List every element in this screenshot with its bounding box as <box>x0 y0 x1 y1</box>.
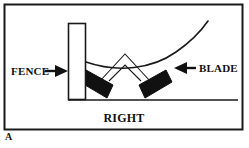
fence-board <box>69 24 86 100</box>
diagram-canvas: FENCE BLADE RIGHT <box>0 0 249 148</box>
fence-label: FENCE <box>11 65 49 77</box>
blade-label: BLADE <box>199 62 238 74</box>
figure-container: FENCE BLADE RIGHT A <box>0 0 249 148</box>
figure-caption: A <box>5 132 12 142</box>
right-label: RIGHT <box>103 111 144 125</box>
